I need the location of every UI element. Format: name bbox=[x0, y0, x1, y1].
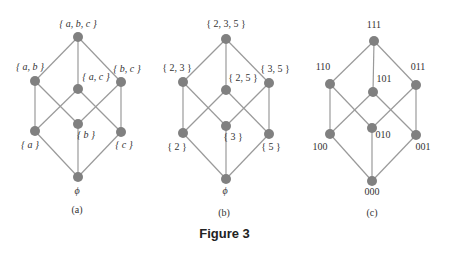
node-c-000 bbox=[367, 176, 377, 186]
label-a-ac: { a, c } bbox=[82, 71, 109, 82]
node-a-b bbox=[73, 119, 83, 129]
label-c-000: 000 bbox=[365, 186, 380, 197]
node-b-235 bbox=[221, 34, 231, 44]
node-c-111 bbox=[369, 36, 379, 46]
node-a-c bbox=[116, 127, 126, 137]
node-a-abc bbox=[73, 32, 83, 42]
label-b-3: { 3 } bbox=[223, 131, 243, 142]
label-c-111: 111 bbox=[367, 19, 381, 30]
node-b-empty bbox=[221, 174, 231, 184]
node-b-2 bbox=[178, 128, 188, 138]
hasse-diagram-b bbox=[183, 39, 269, 179]
sublabel-c: (c) bbox=[366, 207, 377, 219]
node-b-23 bbox=[178, 77, 188, 87]
node-a-ac bbox=[73, 84, 83, 94]
node-c-011 bbox=[411, 80, 421, 90]
label-a-bc: { b, c } bbox=[113, 63, 140, 74]
label-a-c: { c } bbox=[115, 139, 132, 150]
label-b-235: { 2, 3, 5 } bbox=[206, 18, 246, 29]
label-b-empty: ϕ bbox=[222, 185, 227, 196]
label-a-ab: { a, b } bbox=[16, 61, 44, 72]
node-c-101 bbox=[368, 87, 378, 97]
label-b-25: { 2, 5 } bbox=[228, 72, 258, 83]
figure-caption: Figure 3 bbox=[0, 226, 449, 241]
node-c-100 bbox=[325, 129, 335, 139]
hasse-diagram-a bbox=[35, 37, 121, 177]
sublabel-b: (b) bbox=[218, 207, 230, 219]
node-c-001 bbox=[411, 130, 421, 140]
hasse-diagram-c bbox=[330, 41, 416, 181]
label-b-23: { 2, 3 } bbox=[162, 62, 192, 73]
label-c-011: 011 bbox=[411, 61, 426, 72]
sublabel-a: (a) bbox=[71, 204, 82, 216]
label-c-101: 101 bbox=[377, 73, 392, 84]
label-c-110: 110 bbox=[316, 61, 331, 72]
label-a-abc: { a, b, c } bbox=[59, 18, 96, 29]
node-b-35 bbox=[264, 78, 274, 88]
label-a-a: { a } bbox=[21, 139, 39, 150]
node-a-ab bbox=[30, 76, 40, 86]
label-b-2: { 2 } bbox=[167, 141, 187, 152]
node-a-a bbox=[30, 126, 40, 136]
label-b-35: { 3, 5 } bbox=[260, 63, 290, 74]
label-c-010: 010 bbox=[376, 129, 391, 140]
hasse-diagrams-figure: { a, b, c } { a, b } { a, c } { b, c } {… bbox=[0, 0, 449, 260]
node-c-110 bbox=[325, 79, 335, 89]
label-c-100: 100 bbox=[313, 141, 328, 152]
node-a-empty bbox=[73, 172, 83, 182]
label-b-5: { 5 } bbox=[261, 141, 281, 152]
label-a-b: { b } bbox=[77, 129, 95, 140]
node-b-5 bbox=[264, 129, 274, 139]
label-a-empty: ϕ bbox=[74, 185, 79, 196]
label-c-001: 001 bbox=[416, 141, 431, 152]
node-b-25 bbox=[221, 85, 231, 95]
node-a-bc bbox=[116, 77, 126, 87]
node-b-3 bbox=[221, 121, 231, 131]
